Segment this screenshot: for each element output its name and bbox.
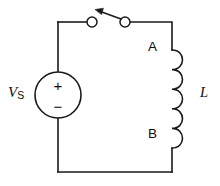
inductor-coil-symbol — [172, 50, 183, 148]
inductor-label: L — [200, 85, 208, 100]
polarity-minus-sign: − — [50, 99, 66, 114]
switch-arrow-icon — [95, 8, 103, 14]
polarity-plus-sign: + — [50, 78, 66, 93]
voltage-source-label-main: V — [8, 84, 17, 100]
voltage-source-label: VS — [8, 85, 24, 101]
voltage-source-label-subscript: S — [17, 89, 24, 101]
node-label-a: A — [148, 40, 157, 54]
node-label-b: B — [148, 127, 157, 141]
circuit-diagram-canvas: VS + − A B L — [0, 0, 220, 186]
circuit-schematic-svg — [0, 0, 220, 186]
switch-terminal-left[interactable] — [87, 17, 97, 27]
